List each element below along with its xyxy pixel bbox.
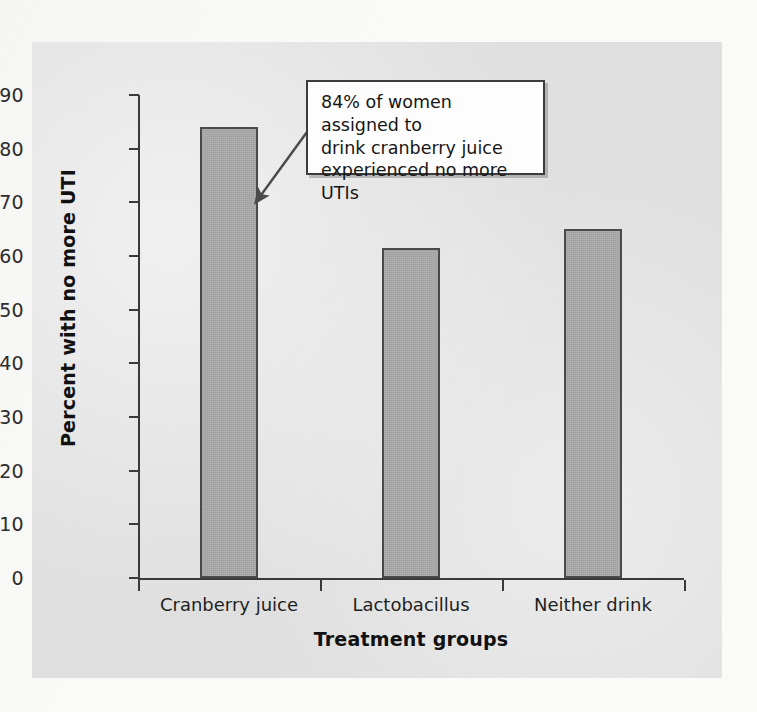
- annotation-line-1: 84% of women assigned to: [321, 92, 452, 135]
- y-tick-mark: [129, 416, 139, 418]
- y-tick-label: 20: [0, 460, 24, 482]
- y-tick-mark: [129, 470, 139, 472]
- y-tick-mark: [129, 148, 139, 150]
- annotation-callout-box: 84% of women assigned to drink cranberry…: [306, 80, 545, 175]
- annotation-line-3: experienced no more UTIs: [321, 160, 507, 203]
- bar-neither-drink: [564, 229, 622, 578]
- y-tick-mark: [129, 523, 139, 525]
- y-tick-label: 30: [0, 406, 24, 428]
- page-root: 0102030405060708090 Cranberry juiceLacto…: [0, 0, 757, 712]
- y-tick-label: 90: [0, 84, 24, 106]
- x-tick-mark: [684, 580, 686, 591]
- y-tick-label: 10: [0, 513, 24, 535]
- y-tick-label: 80: [0, 138, 24, 160]
- y-tick-label: 40: [0, 352, 24, 374]
- plot-area: 0102030405060708090 Cranberry juiceLacto…: [32, 42, 722, 678]
- y-tick-mark: [129, 362, 139, 364]
- y-tick-mark: [129, 309, 139, 311]
- y-tick-mark: [129, 201, 139, 203]
- bar-cranberry-juice: [200, 127, 258, 578]
- y-tick-label: 60: [0, 245, 24, 267]
- y-axis-title: Percent with no more UTI: [57, 98, 79, 518]
- x-label-neither-drink: Neither drink: [534, 594, 652, 615]
- x-axis-title: Treatment groups: [138, 628, 684, 650]
- bar-lactobacillus: [382, 248, 440, 578]
- x-label-cranberry-juice: Cranberry juice: [160, 594, 298, 615]
- chart-figure-panel: 0102030405060708090 Cranberry juiceLacto…: [32, 42, 722, 678]
- y-tick-label: 70: [0, 191, 24, 213]
- x-label-lactobacillus: Lactobacillus: [352, 594, 469, 615]
- annotation-text: 84% of women assigned to drink cranberry…: [321, 91, 532, 205]
- y-tick-mark: [129, 255, 139, 257]
- y-axis-line: [138, 95, 140, 578]
- y-tick-label: 50: [0, 299, 24, 321]
- x-tick-mark: [502, 580, 504, 591]
- y-tick-mark: [129, 94, 139, 96]
- y-tick-label: 0: [12, 567, 24, 589]
- y-tick-mark: [129, 577, 139, 579]
- x-axis-line: [138, 578, 684, 580]
- x-tick-mark: [320, 580, 322, 591]
- x-tick-mark: [138, 580, 140, 591]
- annotation-line-2: drink cranberry juice: [321, 138, 503, 158]
